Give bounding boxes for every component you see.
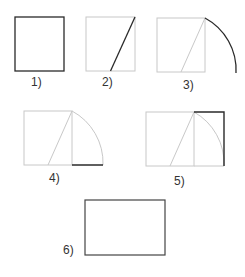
- step-4-label: 4): [49, 171, 60, 185]
- square: [86, 17, 135, 71]
- step-3-figure: 3): [157, 18, 236, 92]
- step-5-label: 5): [174, 174, 185, 188]
- step-6-figure: 6): [63, 200, 165, 257]
- square: [146, 112, 194, 166]
- step-3-label: 3): [183, 78, 194, 92]
- golden-rectangle-diagram: 1) 2) 3) 4) 5) 6): [0, 0, 245, 277]
- midpoint-diagonal: [181, 18, 205, 72]
- radius-arc: [194, 112, 224, 166]
- step-2-figure: 2): [86, 17, 135, 89]
- completed-rectangle-edges: [194, 112, 224, 166]
- step-1-figure: 1): [15, 17, 64, 89]
- step-5-figure: 5): [146, 112, 224, 188]
- radius-arc: [205, 18, 236, 73]
- step-2-label: 2): [102, 75, 113, 89]
- radius-arc: [72, 111, 103, 165]
- midpoint-diagonal: [48, 111, 72, 165]
- square: [24, 111, 72, 165]
- golden-rectangle: [85, 200, 165, 255]
- square: [157, 18, 205, 72]
- step-1-label: 1): [31, 75, 42, 89]
- midpoint-diagonal: [170, 112, 194, 166]
- midpoint-diagonal: [111, 17, 136, 71]
- step-6-label: 6): [63, 243, 74, 257]
- square: [15, 17, 64, 71]
- step-4-figure: 4): [24, 111, 103, 185]
